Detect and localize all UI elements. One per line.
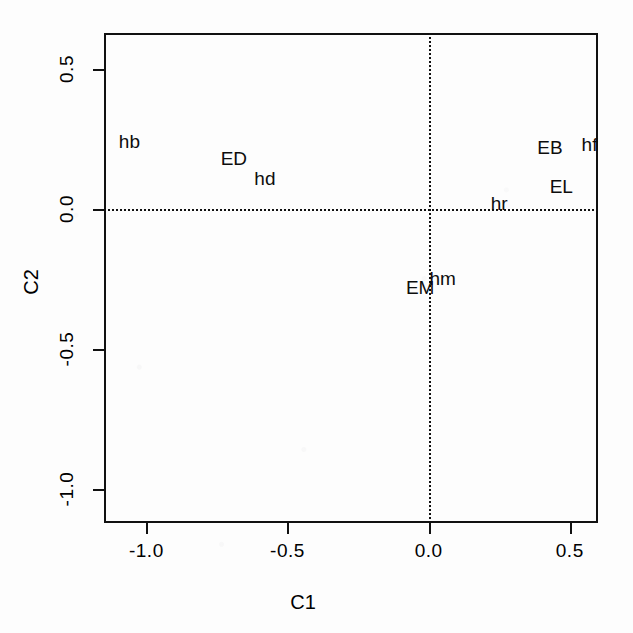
point-label-hr: hr: [491, 193, 508, 215]
x-tick-mark: [570, 523, 572, 534]
y-tick-label: 0.0: [56, 195, 78, 223]
x-tick-label: 0.0: [415, 540, 443, 562]
x-tick-label: -0.5: [270, 540, 305, 562]
point-label-ED: ED: [221, 148, 247, 170]
point-label-EL: EL: [550, 176, 573, 198]
x-tick-mark: [146, 523, 148, 534]
x-tick-mark: [429, 523, 431, 534]
x-tick-mark: [287, 523, 289, 534]
plot-frame: [104, 33, 598, 523]
point-label-EB: EB: [537, 137, 562, 159]
point-label-hm: hm: [430, 268, 456, 290]
point-label-hd: hd: [254, 168, 275, 190]
y-tick-label: 0.5: [56, 55, 78, 83]
correspondence-analysis-scatter-plot: -1.0-0.50.00.5 0.50.0-0.5-1.0 hbEDhdEBhf…: [0, 0, 633, 633]
x-tick-label: -1.0: [129, 540, 164, 562]
point-label-hf: hf: [582, 134, 598, 156]
y-tick-label: -1.0: [56, 472, 78, 507]
x-tick-label: 0.5: [556, 540, 584, 562]
y-tick-label: -0.5: [56, 332, 78, 367]
y-axis-title: C2: [20, 269, 43, 295]
y-tick-mark: [93, 209, 104, 211]
horizontal-zero-reference-line: [104, 209, 598, 211]
x-axis-title: C1: [290, 591, 316, 614]
point-label-hb: hb: [119, 131, 140, 153]
y-tick-mark: [93, 69, 104, 71]
y-tick-mark: [93, 489, 104, 491]
y-tick-mark: [93, 349, 104, 351]
